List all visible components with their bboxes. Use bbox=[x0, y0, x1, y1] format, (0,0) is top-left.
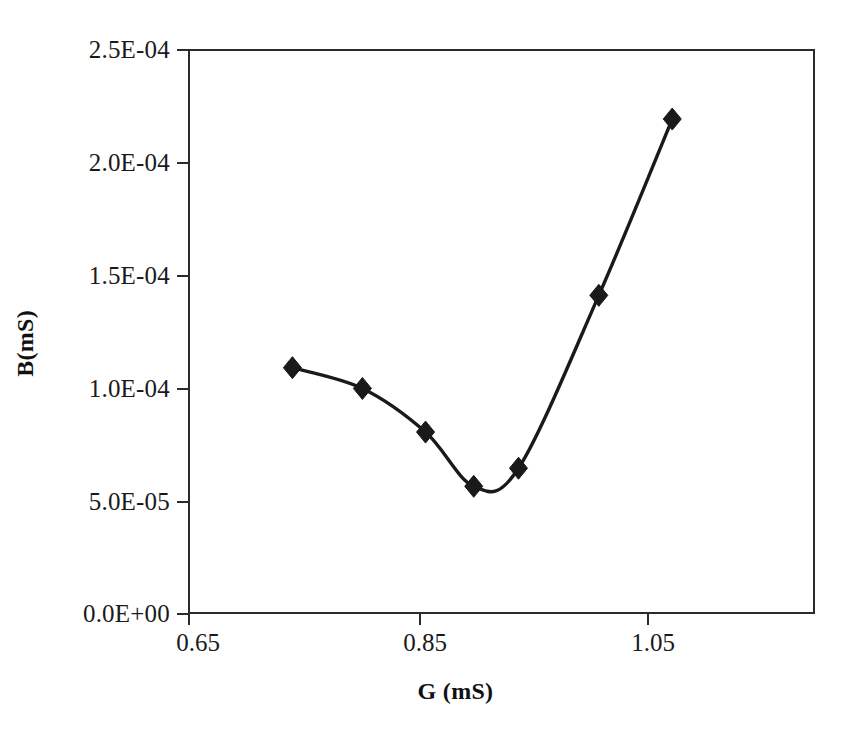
chart-container: 2.5E-04 2.0E-04 1.5E-04 1.0E-04 5.0E-05 … bbox=[0, 0, 851, 734]
x-axis-tick-label-1.05: 1.05 bbox=[631, 629, 675, 657]
y-axis-tick-label-0.0e+00: 0.0E+00 bbox=[83, 601, 170, 626]
x-axis-tick-mark bbox=[647, 613, 649, 625]
x-axis-tick-mark bbox=[419, 613, 421, 625]
y-axis-tick-label-2.0e-04: 2.0E-04 bbox=[89, 150, 170, 175]
y-axis-tick-mark bbox=[177, 162, 188, 164]
y-axis-title: B(mS) bbox=[12, 310, 39, 377]
y-axis-tick-mark bbox=[177, 501, 188, 503]
x-axis-tick-mark bbox=[188, 613, 190, 625]
y-axis-tick-mark bbox=[177, 49, 188, 51]
x-axis-tick-label-0.85: 0.85 bbox=[403, 629, 447, 657]
y-axis-tick-label-1.0e-04: 1.0E-04 bbox=[89, 376, 170, 401]
y-axis-tick-label-1.5e-04: 1.5E-04 bbox=[89, 263, 170, 288]
x-axis-title: G (mS) bbox=[0, 678, 851, 705]
y-axis-tick-label-5.0e-05: 5.0E-05 bbox=[89, 489, 170, 514]
y-axis-tick-mark bbox=[177, 388, 188, 390]
x-axis-tick-label-0.65: 0.65 bbox=[176, 629, 220, 657]
y-axis-tick-label-2.5e-04: 2.5E-04 bbox=[89, 37, 170, 62]
y-axis-tick-mark bbox=[177, 613, 188, 615]
y-axis-tick-mark bbox=[177, 275, 188, 277]
plot-area-frame bbox=[188, 49, 815, 614]
